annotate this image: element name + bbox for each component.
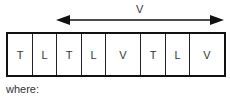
tlv-cell-l: L [82, 34, 106, 75]
tlv-cell-t: T [141, 34, 166, 75]
tlv-cell-l: L [33, 34, 57, 75]
tlv-cell-v: V [106, 34, 141, 75]
tlv-sequence-box: TLTLVTLV [6, 32, 226, 77]
tlv-cell-v: V [190, 34, 224, 75]
tlv-cell-t: T [57, 34, 82, 75]
tlv-cell-l: L [166, 34, 190, 75]
tlv-cell-t: T [8, 34, 33, 75]
where-caption: where: [6, 83, 39, 95]
arrow-label: V [136, 3, 143, 15]
